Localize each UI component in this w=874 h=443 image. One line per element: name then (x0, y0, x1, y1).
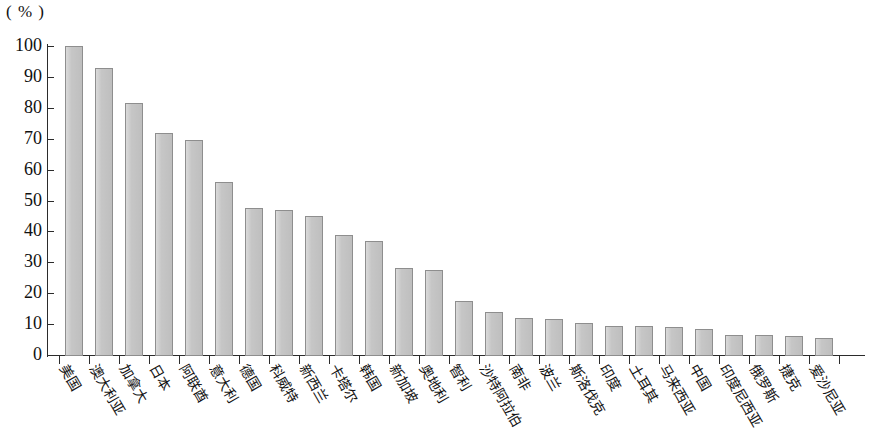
x-axis-category-label: 波兰 (536, 362, 563, 394)
bar (275, 210, 293, 356)
bar (155, 133, 173, 356)
bar (695, 329, 713, 356)
x-axis-category-label: 卡塔尔 (326, 362, 360, 406)
y-axis-tick-label: 100 (15, 35, 42, 55)
x-axis-category-label: 美国 (56, 362, 83, 394)
x-axis-category-label: 日本 (146, 362, 173, 394)
bar (305, 216, 323, 356)
bar (215, 182, 233, 356)
bar (65, 46, 83, 356)
y-axis-tick-label: 20 (24, 282, 42, 302)
x-axis-category-label: 捷克 (776, 362, 803, 394)
bar (545, 319, 563, 356)
bar (335, 235, 353, 357)
x-axis-category-label: 奥地利 (416, 362, 450, 406)
bar (755, 335, 773, 356)
x-axis-category-labels: 美国澳大利亚加拿大日本阿联酋意大利德国科威特新西兰卡塔尔韩国新加坡奥地利智利沙特… (48, 362, 865, 443)
y-axis-tick-label: 0 (33, 344, 42, 364)
x-axis-category-label: 印度 (596, 362, 623, 394)
bar (575, 323, 593, 356)
bar (245, 208, 263, 356)
y-axis-tick-label: 40 (24, 220, 42, 240)
x-axis-category-label: 新西兰 (296, 362, 330, 406)
bar-chart: ( % ) 1009080706050403020100 美国澳大利亚加拿大日本… (0, 0, 874, 443)
y-axis-tick-label: 80 (24, 97, 42, 117)
x-axis-category-label: 意大利 (206, 362, 240, 406)
y-axis-tick-label: 10 (24, 313, 42, 333)
y-axis-tick-label: 90 (24, 66, 42, 86)
x-axis-category-label: 科威特 (266, 362, 300, 406)
x-axis-category-label: 爱沙尼亚 (806, 362, 847, 418)
y-axis-tick-label: 70 (24, 128, 42, 148)
bar (515, 318, 533, 356)
x-axis-category-label: 阿联酋 (176, 362, 210, 406)
bar (725, 335, 743, 356)
bar (485, 312, 503, 356)
y-axis-unit-label: ( % ) (6, 2, 45, 22)
bar (455, 301, 473, 356)
y-axis-tick-label: 60 (24, 159, 42, 179)
y-axis-tick-label: 50 (24, 190, 42, 210)
bar (665, 327, 683, 356)
x-axis-category-label: 南非 (506, 362, 533, 394)
x-axis-category-label: 土耳其 (626, 362, 660, 406)
bar (785, 336, 803, 356)
bar (185, 140, 203, 356)
bar (605, 326, 623, 356)
y-axis-tick-label: 30 (24, 251, 42, 271)
bar (365, 241, 383, 356)
x-axis-category-label: 新加坡 (386, 362, 420, 406)
bar (395, 268, 413, 356)
x-axis-category-label: 智利 (446, 362, 473, 394)
x-axis-category-label: 韩国 (356, 362, 383, 394)
bars-container (48, 44, 865, 356)
bar (425, 270, 443, 356)
bar (95, 68, 113, 356)
bar (125, 103, 143, 356)
bar (635, 326, 653, 356)
bar (815, 338, 833, 356)
x-axis-category-label: 德国 (236, 362, 263, 394)
x-axis-category-label: 中国 (686, 362, 713, 394)
